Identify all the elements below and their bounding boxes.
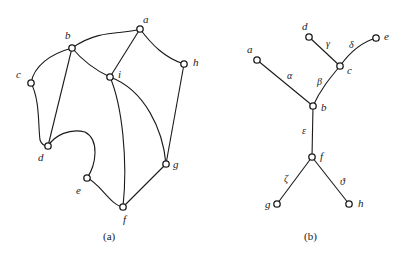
graph-figure: a b c d e f g h i (a) <box>0 0 404 259</box>
node-label-a: a <box>143 13 149 25</box>
tree-node-d <box>306 34 312 40</box>
tree-node-c <box>337 63 343 69</box>
edge-label-epsilon: ε <box>302 125 306 136</box>
edge-delta-c-e <box>340 38 376 66</box>
node-a <box>137 26 143 32</box>
tree-node-g <box>274 201 280 207</box>
node-label-i: i <box>118 68 121 80</box>
edge-d-e <box>48 131 95 178</box>
edge-c-d <box>31 83 48 146</box>
tree-node-label-a: a <box>247 43 253 55</box>
edge-a-h <box>140 29 184 64</box>
tree-node-label-g: g <box>265 198 271 210</box>
node-label-g: g <box>173 158 179 170</box>
edge-zeta-f-g <box>277 157 312 204</box>
tree-node-label-e: e <box>384 30 389 42</box>
edge-epsilon-b-f <box>312 106 313 157</box>
tree-node-b <box>310 103 316 109</box>
tree-node-label-h: h <box>358 197 364 209</box>
edge-gamma-d-c <box>309 37 340 66</box>
node-label-d: d <box>38 151 44 163</box>
tree-node-label-d: d <box>302 20 308 32</box>
edge-label-gamma: γ <box>326 38 331 49</box>
edge-a-i <box>110 29 140 77</box>
edge-e-f <box>87 178 123 207</box>
node-b <box>69 45 75 51</box>
panel-a-caption: (a) <box>103 230 116 243</box>
node-f <box>120 204 126 210</box>
edge-b-i <box>72 48 110 77</box>
tree-node-f <box>309 154 315 160</box>
tree-node-e <box>373 35 379 41</box>
tree-node-label-f: f <box>320 150 325 162</box>
panel-a-graph: a b c d e f g h i (a) <box>16 13 199 243</box>
edge-alpha-a-b <box>257 60 313 106</box>
edge-label-zeta: ζ <box>284 173 289 185</box>
node-g <box>163 161 169 167</box>
node-label-e: e <box>76 184 81 196</box>
edge-label-beta: β <box>316 76 322 87</box>
node-label-b: b <box>65 29 71 41</box>
edge-f-g <box>123 164 166 207</box>
node-label-c: c <box>16 68 21 80</box>
edge-label-alpha: α <box>287 70 293 81</box>
node-label-h: h <box>193 56 199 68</box>
edge-label-delta: δ <box>349 39 354 50</box>
edge-label-theta: ϑ <box>340 176 346 187</box>
node-label-f: f <box>123 213 128 225</box>
edge-b-c <box>31 48 72 83</box>
panel-b-tree: a b c d e f g h α β γ δ ε ζ ϑ (b) <box>247 20 389 243</box>
panel-b-caption: (b) <box>304 230 317 243</box>
node-d <box>45 143 51 149</box>
tree-node-label-c: c <box>347 64 352 76</box>
tree-node-a <box>254 57 260 63</box>
node-c <box>28 80 34 86</box>
edge-h-g <box>166 64 184 164</box>
node-e <box>84 175 90 181</box>
edge-i-g <box>110 77 166 164</box>
node-i <box>107 74 113 80</box>
edge-i-f <box>110 77 125 207</box>
tree-node-h <box>346 201 352 207</box>
tree-node-label-b: b <box>321 101 327 113</box>
node-h <box>181 61 187 67</box>
